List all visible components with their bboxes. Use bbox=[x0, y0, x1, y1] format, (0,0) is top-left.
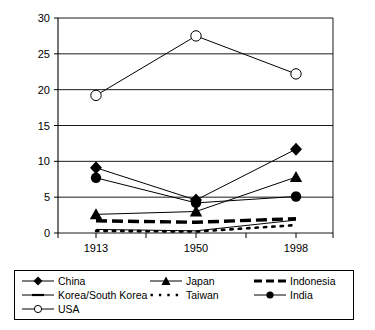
legend-item-indonesia[interactable]: Indonesia bbox=[253, 274, 357, 288]
legend-label: India bbox=[290, 289, 313, 301]
y-axis-tick-labels: 30 25 20 15 10 5 0 bbox=[38, 12, 50, 239]
series-indonesia bbox=[96, 219, 296, 223]
y-tick-label: 10 bbox=[38, 155, 50, 167]
filled-triangle-line-icon bbox=[149, 275, 183, 287]
legend-item-japan[interactable]: Japan bbox=[149, 274, 253, 288]
legend-item-korea-south-korea[interactable]: Korea/South Korea bbox=[21, 288, 149, 302]
legend-item-india[interactable]: India bbox=[253, 288, 357, 302]
series-layer bbox=[90, 31, 302, 232]
legend-label: Japan bbox=[186, 275, 215, 287]
legend-item-usa[interactable]: USA bbox=[21, 302, 149, 316]
y-tick-label: 25 bbox=[38, 48, 50, 60]
x-axis-tick-labels: 1913 1950 1998 bbox=[84, 242, 308, 254]
x-tick-label: 1950 bbox=[184, 242, 208, 254]
legend-label: China bbox=[58, 275, 85, 287]
series-usa bbox=[96, 36, 296, 95]
series-china bbox=[96, 149, 296, 200]
line-chart: 30 25 20 15 10 5 0 1913 1950 1998 bbox=[0, 0, 375, 330]
legend-label: Korea/South Korea bbox=[58, 289, 147, 301]
legend-item-china[interactable]: China bbox=[21, 274, 149, 288]
markers-india bbox=[91, 173, 301, 208]
filled-diamond-line-icon bbox=[21, 275, 55, 287]
open-circle-line-icon bbox=[21, 303, 55, 315]
solid-thin-line-icon bbox=[21, 289, 55, 301]
legend-item-taiwan[interactable]: Taiwan bbox=[149, 288, 253, 302]
dotted-line-icon bbox=[149, 289, 183, 301]
legend-label: USA bbox=[58, 303, 80, 315]
x-tick-label: 1998 bbox=[284, 242, 308, 254]
series-taiwan bbox=[96, 225, 296, 231]
y-tick-label: 5 bbox=[44, 191, 50, 203]
x-tick-label: 1913 bbox=[84, 242, 108, 254]
legend-label: Indonesia bbox=[290, 275, 336, 287]
thick-dashed-line-icon bbox=[253, 275, 287, 287]
y-tick-label: 15 bbox=[38, 120, 50, 132]
y-tick-label: 30 bbox=[38, 12, 50, 24]
y-tick-label: 0 bbox=[44, 227, 50, 239]
chart-legend: China Japan Indonesia bbox=[14, 270, 354, 320]
y-tick-label: 20 bbox=[38, 84, 50, 96]
plot-area: 30 25 20 15 10 5 0 1913 1950 1998 bbox=[0, 0, 375, 265]
legend-label: Taiwan bbox=[186, 289, 219, 301]
filled-circle-line-icon bbox=[253, 289, 287, 301]
markers-usa bbox=[91, 31, 301, 101]
